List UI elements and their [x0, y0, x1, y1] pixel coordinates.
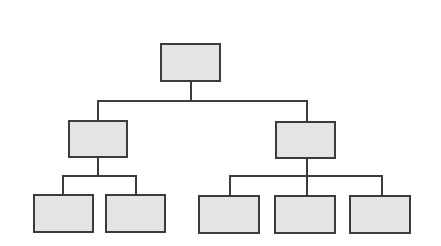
node-leaf-1 [33, 194, 94, 233]
node-root [160, 43, 221, 82]
connector-root-down [190, 82, 192, 102]
connector-right-bus-to-leaf-3 [229, 175, 231, 195]
connector-bus-to-mid-right [306, 100, 308, 121]
connector-mid-right-down [306, 159, 308, 176]
connector-bus-to-mid-left [97, 100, 99, 120]
connector-left-bus-to-leaf-2 [135, 175, 137, 194]
connector-left-bus [62, 175, 137, 177]
connector-level1-bus [97, 100, 308, 102]
node-mid-left [68, 120, 128, 158]
node-leaf-3 [198, 195, 260, 234]
connector-mid-left-down [97, 158, 99, 176]
node-leaf-2 [105, 194, 166, 233]
node-leaf-4 [274, 195, 336, 234]
connector-right-bus-to-leaf-4 [306, 175, 308, 195]
connector-right-bus-to-leaf-5 [381, 175, 383, 195]
org-chart-diagram [0, 0, 441, 246]
node-leaf-5 [349, 195, 411, 234]
connector-left-bus-to-leaf-1 [62, 175, 64, 194]
node-mid-right [275, 121, 336, 159]
